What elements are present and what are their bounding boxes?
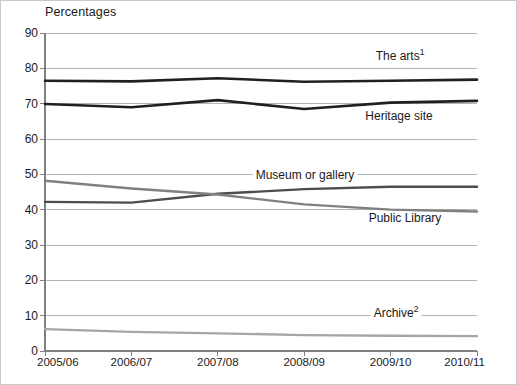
x-tick-label: 2008/09 [283,356,325,368]
series-label-archive: Archive2 [371,307,422,321]
series-label-museum-or-gallery-text: Museum or gallery [256,168,355,182]
series-label-heritage-site-text: Heritage site [365,109,432,123]
x-tick-label: 2006/07 [111,356,153,368]
series-label-archive-text: Archive [374,306,414,320]
series-label-archive-footnote: 2 [414,304,419,314]
plot-area [0,0,517,385]
x-tick-label: 2010/11 [444,356,485,368]
series-label-heritage-site: Heritage site [362,110,435,124]
series-label-the-arts-text: The arts [376,49,420,63]
x-tick-label: 2009/10 [370,356,412,368]
series-label-museum-or-gallery: Museum or gallery [253,169,358,183]
x-tick-label: 2007/08 [197,356,239,368]
series-label-the-arts-footnote: 1 [420,47,425,57]
series-label-public-library: Public Library [366,212,445,226]
series-label-public-library-text: Public Library [369,211,442,225]
series-label-the-arts: The arts1 [373,50,428,64]
line-chart: Percentages 0102030405060708090 2005/062… [0,0,517,385]
x-tick-label: 2005/06 [37,356,79,368]
